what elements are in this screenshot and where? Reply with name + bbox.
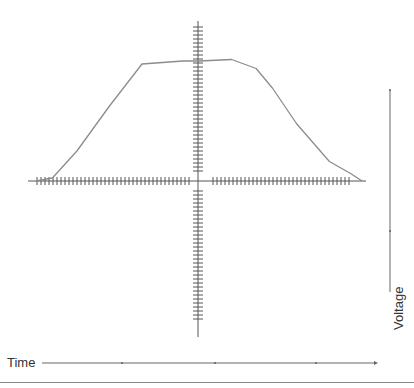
time-marker [214,362,216,364]
bottom-divider [0,382,414,383]
time-axis-arrow [42,361,378,365]
voltage-label: Voltage [391,287,406,330]
vertical-axis [193,21,203,337]
voltage-marker [389,230,391,232]
horizontal-axis [28,177,366,185]
voltage-axis-arrow [389,89,391,292]
time-label: Time [7,355,35,370]
time-marker [315,362,317,364]
time-arrow-head [374,361,378,365]
voltage-marker [389,89,391,91]
pulse-diagram: Time Voltage [0,0,414,388]
time-marker [121,362,123,364]
pulse-plot [0,0,414,388]
